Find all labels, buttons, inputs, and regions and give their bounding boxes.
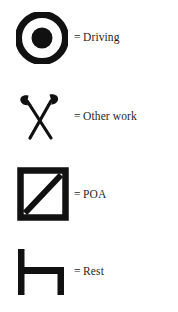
legend-item-driving: =Driving [0,7,178,67]
legend-label-poa: =POA [74,188,178,201]
legend-item-rest: =Rest [0,243,178,299]
legend-icon-cell [0,164,74,224]
legend-label-text: Other work [83,110,137,122]
duty-status-legend: =Driving =Other work =POA [0,0,178,312]
equals-sign: = [74,188,81,200]
legend-item-other-work: =Other work [0,86,178,146]
equals-sign: = [74,31,81,43]
legend-label-text: Rest [83,265,104,277]
legend-label-other-work: =Other work [74,110,178,123]
legend-label-driving: =Driving [74,31,178,44]
legend-item-poa: =POA [0,164,178,224]
legend-icon-cell [0,241,74,301]
legend-icon-cell [0,7,74,67]
legend-label-rest: =Rest [74,265,178,278]
legend-icon-cell [0,86,74,146]
equals-sign: = [74,265,81,277]
square-diagonal-icon [17,167,69,221]
crossed-mallets-icon [18,88,64,144]
legend-label-text: Driving [83,31,119,43]
equals-sign: = [74,110,81,122]
bed-icon [16,249,70,297]
legend-label-text: POA [83,188,106,200]
bullseye-icon [16,12,68,64]
